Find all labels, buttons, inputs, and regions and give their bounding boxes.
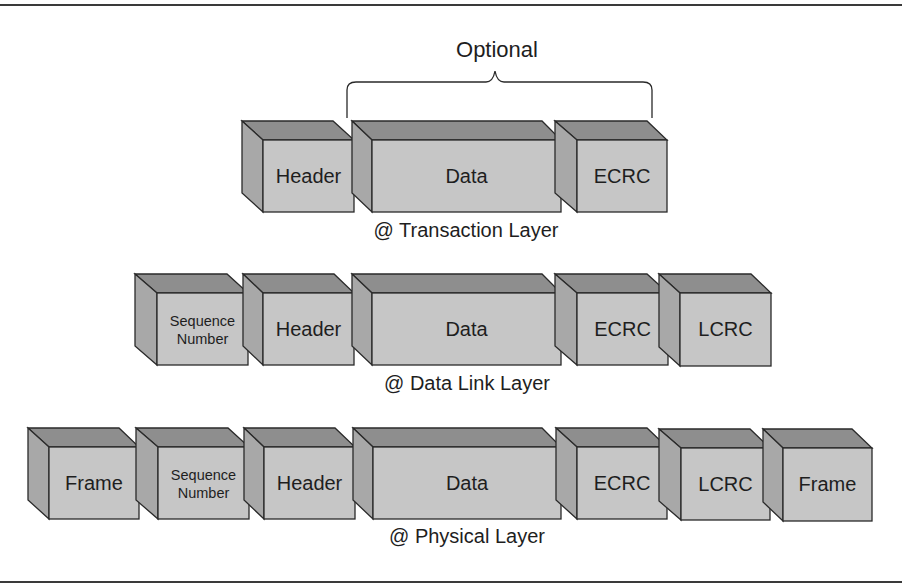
physical-layer-row: Frame Sequence Number Header Data (28, 428, 872, 547)
packet-box-ecrc: ECRC (556, 428, 667, 519)
packet-box-sequence-number: Sequence Number (136, 428, 249, 519)
box-label: LCRC (698, 318, 752, 340)
box-label: Sequence (170, 313, 235, 329)
box-label: ECRC (594, 165, 651, 187)
packet-box-ecrc: ECRC (555, 121, 667, 212)
box-label: ECRC (594, 472, 651, 494)
box-label: Header (276, 318, 342, 340)
box-label: Header (276, 165, 342, 187)
packet-box-header: Header (244, 428, 355, 519)
packet-box-ecrc: ECRC (555, 274, 668, 365)
box-label: Number (178, 485, 230, 501)
transaction-layer-row: Header Data ECRC @ Transaction Layer (242, 121, 667, 241)
packet-box-lcrc: LCRC (659, 274, 771, 366)
data-link-layer-row: Sequence Number Header Data ECRC (135, 274, 771, 394)
packet-box-data: Data (352, 274, 561, 365)
packet-box-header: Header (242, 121, 354, 212)
box-label: Frame (65, 472, 123, 494)
optional-brace: Optional (347, 37, 652, 118)
box-label: Data (446, 472, 489, 494)
packet-box-lcrc: LCRC (659, 429, 770, 520)
box-label: ECRC (594, 318, 651, 340)
packet-box-data: Data (352, 121, 561, 212)
packet-box-frame-end: Frame (763, 429, 872, 521)
packet-box-header: Header (243, 274, 354, 365)
layer-label-data-link: @ Data Link Layer (384, 372, 550, 394)
layer-label-physical: @ Physical Layer (389, 525, 545, 547)
box-label: LCRC (698, 473, 752, 495)
packet-box-sequence-number: Sequence Number (135, 274, 248, 365)
packet-box-frame-start: Frame (28, 428, 139, 519)
box-label: Number (177, 331, 229, 347)
box-label: Data (445, 318, 488, 340)
box-label: Header (277, 472, 343, 494)
brace-icon (347, 71, 652, 118)
packet-box-data: Data (353, 428, 561, 519)
layer-label-transaction: @ Transaction Layer (374, 219, 559, 241)
tlp-layers-diagram: Optional Header Data ECRC @ Transaction … (0, 0, 906, 586)
box-label: Frame (799, 473, 857, 495)
box-label: Data (445, 165, 488, 187)
optional-label: Optional (456, 37, 538, 62)
box-label: Sequence (171, 467, 236, 483)
